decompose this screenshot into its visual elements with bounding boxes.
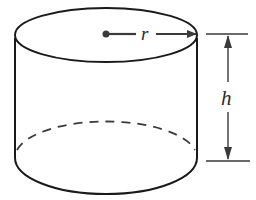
- height-label: h: [221, 88, 232, 109]
- bottom-face-hidden-arc: [17, 122, 195, 150]
- height-arrowhead-up: [224, 35, 232, 48]
- radius-label: r: [141, 24, 148, 43]
- cylinder-diagram: [0, 0, 256, 200]
- height-arrowhead-down: [224, 147, 232, 160]
- bottom-face-front-arc: [15, 158, 197, 194]
